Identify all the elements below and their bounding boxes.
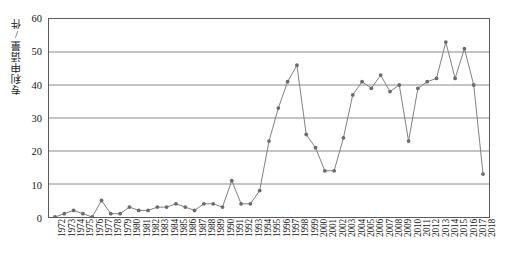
data-point	[109, 212, 113, 216]
x-tick-label: 1983	[160, 219, 170, 237]
data-point	[165, 205, 169, 209]
data-point	[314, 146, 318, 150]
data-point	[239, 202, 243, 206]
data-point	[128, 205, 132, 209]
data-point	[323, 169, 327, 173]
data-point	[481, 172, 485, 176]
x-tick-label: 1978	[113, 219, 123, 237]
data-point	[379, 73, 383, 77]
x-tick-label: 2001	[328, 219, 338, 237]
data-point	[137, 209, 141, 213]
x-tick-label: 2006	[375, 219, 385, 237]
x-tick-label: 2018	[487, 219, 497, 237]
x-tick-label: 1980	[132, 219, 142, 237]
y-axis-tick-labels: 0102030405060	[0, 0, 46, 273]
data-point	[435, 77, 439, 81]
data-point	[397, 83, 401, 87]
x-tick-label: 2003	[347, 219, 357, 237]
x-tick-label: 1995	[272, 219, 282, 237]
data-line-series	[55, 42, 483, 217]
y-tick-label: 60	[0, 13, 46, 24]
data-point	[248, 202, 252, 206]
data-point	[444, 40, 448, 44]
data-point	[100, 199, 104, 203]
data-point	[258, 189, 262, 193]
data-point	[351, 93, 355, 97]
data-point	[463, 47, 467, 51]
data-point	[342, 136, 346, 140]
data-point	[453, 77, 457, 81]
data-point	[360, 80, 364, 84]
plot-area	[48, 18, 490, 218]
data-point	[146, 209, 150, 213]
data-point	[155, 205, 159, 209]
y-tick-label: 20	[0, 146, 46, 157]
y-tick-label: 40	[0, 79, 46, 90]
data-point	[286, 80, 290, 84]
data-point	[472, 83, 476, 87]
data-point	[202, 202, 206, 206]
plot-svg	[49, 19, 489, 217]
data-point	[193, 209, 197, 213]
data-point	[62, 212, 66, 216]
y-tick-label: 30	[0, 113, 46, 124]
data-point	[183, 205, 187, 209]
data-point	[174, 202, 178, 206]
x-tick-label: 1986	[188, 219, 198, 237]
data-point	[304, 133, 308, 137]
data-point	[267, 139, 271, 143]
x-tick-label: 2015	[459, 219, 469, 237]
gridlines	[49, 52, 489, 184]
data-point	[53, 215, 57, 217]
line-chart: 专利申请量/件 0102030405060 197219731974197519…	[0, 0, 511, 273]
x-tick-label: 1998	[300, 219, 310, 237]
data-point	[81, 212, 85, 216]
data-point	[276, 106, 280, 110]
x-tick-label: 1992	[244, 219, 254, 237]
x-tick-label: 2009	[403, 219, 413, 237]
y-tick-label: 50	[0, 46, 46, 57]
x-tick-label: 2012	[431, 219, 441, 237]
data-point-markers	[53, 40, 485, 217]
data-point	[388, 90, 392, 94]
data-point	[295, 63, 299, 67]
x-tick-label: 1975	[85, 219, 95, 237]
data-point	[211, 202, 215, 206]
data-point	[332, 169, 336, 173]
data-point	[221, 205, 225, 209]
data-point	[407, 139, 411, 143]
data-point	[118, 212, 122, 216]
y-tick-label: 10	[0, 179, 46, 190]
data-point	[416, 86, 420, 90]
data-point	[72, 209, 76, 213]
x-tick-label: 1989	[216, 219, 226, 237]
data-point	[369, 86, 373, 90]
y-tick-label: 0	[0, 213, 46, 224]
data-point	[230, 179, 234, 183]
x-axis-tick-labels: 1972197319741975197619771978197919801981…	[48, 219, 490, 273]
x-tick-label: 1972	[57, 219, 67, 237]
data-point	[425, 80, 429, 84]
